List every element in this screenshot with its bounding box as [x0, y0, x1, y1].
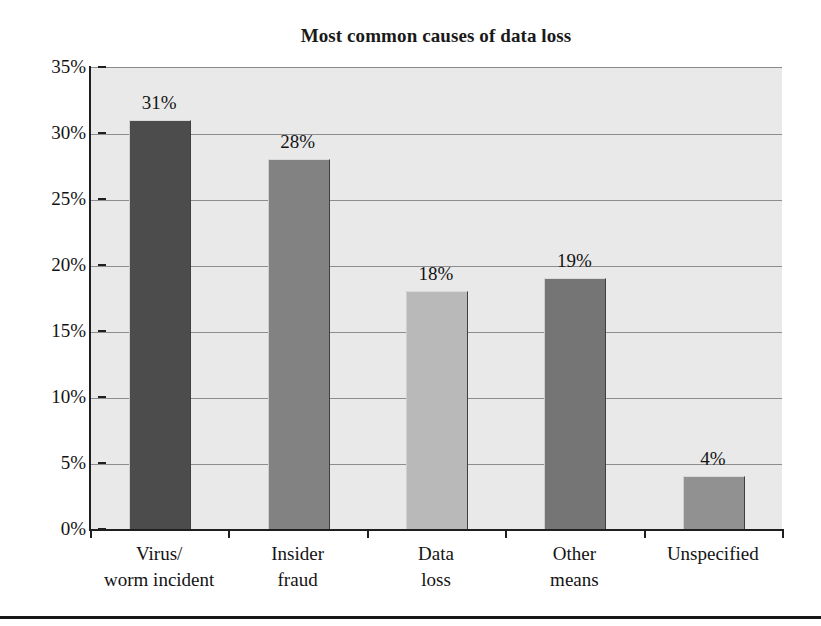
y-tick-label: 20% [24, 254, 86, 276]
gridline [90, 134, 782, 135]
plot-area [90, 67, 782, 530]
bar-value-label: 31% [142, 92, 177, 114]
x-category-label: Unspecified [667, 541, 759, 567]
y-tick-mark [98, 198, 106, 200]
y-tick-label: 30% [24, 122, 86, 144]
y-tick-label: 5% [24, 452, 86, 474]
bar-value-label: 4% [700, 448, 725, 470]
bottom-rule [0, 616, 821, 619]
y-tick-mark [98, 66, 106, 68]
x-axis-line [89, 529, 783, 531]
y-tick-mark [98, 264, 106, 266]
x-tick-mark [644, 529, 646, 538]
y-tick-mark [98, 132, 106, 134]
bar-value-label: 28% [280, 131, 315, 153]
y-tick-mark [98, 396, 106, 398]
y-tick-mark [98, 528, 106, 530]
y-tick-label: 15% [24, 320, 86, 342]
bar [683, 476, 745, 530]
bar [268, 159, 330, 530]
x-tick-mark [228, 529, 230, 538]
gridline [90, 200, 782, 201]
y-tick-label: 25% [24, 188, 86, 210]
y-tick-label: 10% [24, 386, 86, 408]
x-tick-mark [505, 529, 507, 538]
y-tick-label: 0% [24, 518, 86, 540]
y-tick-mark [98, 330, 106, 332]
y-axis-ticks: 0%5%10%15%20%25%30%35% [16, 0, 86, 626]
x-tick-mark [782, 529, 784, 538]
chart-title: Most common causes of data loss [90, 25, 782, 47]
x-category-label: Virus/ worm incident [104, 541, 214, 593]
y-tick-label: 35% [24, 56, 86, 78]
bar [544, 278, 606, 530]
bar [129, 120, 191, 530]
y-axis-line [89, 66, 91, 530]
x-tick-mark [367, 529, 369, 538]
x-tick-mark [90, 529, 92, 538]
x-category-label: Other means [550, 541, 599, 593]
bar-value-label: 18% [419, 263, 454, 285]
x-category-label: Insider fraud [271, 541, 324, 593]
figure-container: Most common causes of data loss 0%5%10%1… [0, 0, 821, 626]
x-category-label: Data loss [418, 541, 454, 593]
y-tick-mark [98, 462, 106, 464]
bar [406, 291, 468, 530]
bar-value-label: 19% [557, 250, 592, 272]
